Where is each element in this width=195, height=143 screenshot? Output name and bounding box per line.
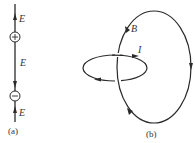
up-arrow-icon [13, 106, 17, 113]
down-arrow-icon [13, 81, 17, 88]
current-loop-left-half [83, 55, 115, 81]
down-arrow-icon [189, 63, 193, 70]
panel-b: B I (b) [83, 11, 193, 139]
up-arrow-icon [13, 13, 17, 20]
panel-b-caption: (b) [146, 129, 157, 139]
magnetic-field-loop [117, 11, 191, 123]
panel-a-caption: (a) [8, 126, 18, 136]
current-loop-right-half [115, 55, 147, 81]
current-loop-label: I [137, 44, 142, 55]
top-field-label: E [18, 13, 25, 24]
magnetic-loop-label: B [131, 23, 137, 34]
figure-canvas: E E E (a) B I (b [0, 0, 195, 143]
middle-field-label: E [19, 57, 26, 68]
bottom-field-label: E [18, 107, 25, 118]
panel-a: E E E (a) [8, 4, 26, 136]
